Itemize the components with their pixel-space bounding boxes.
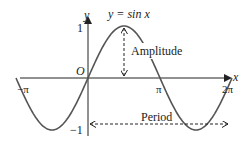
diagram-canvas: y = sin x y x O 1 −1 −π π 2π Amplitude P…: [0, 0, 247, 142]
x-tick-neg-pi: −π: [17, 83, 29, 95]
y-tick-1: 1: [77, 21, 83, 35]
period-label: Period: [141, 110, 172, 124]
sine-diagram: y = sin x y x O 1 −1 −π π 2π Amplitude P…: [0, 0, 247, 142]
y-axis-label: y: [83, 8, 90, 22]
y-tick-neg1: −1: [70, 123, 83, 137]
x-tick-pi: π: [156, 83, 162, 95]
amplitude-label: Amplitude: [131, 44, 182, 58]
function-title: y = sin x: [107, 7, 150, 21]
x-tick-2pi: 2π: [222, 83, 234, 95]
origin-label: O: [76, 64, 85, 78]
x-axis-label: x: [232, 70, 239, 84]
